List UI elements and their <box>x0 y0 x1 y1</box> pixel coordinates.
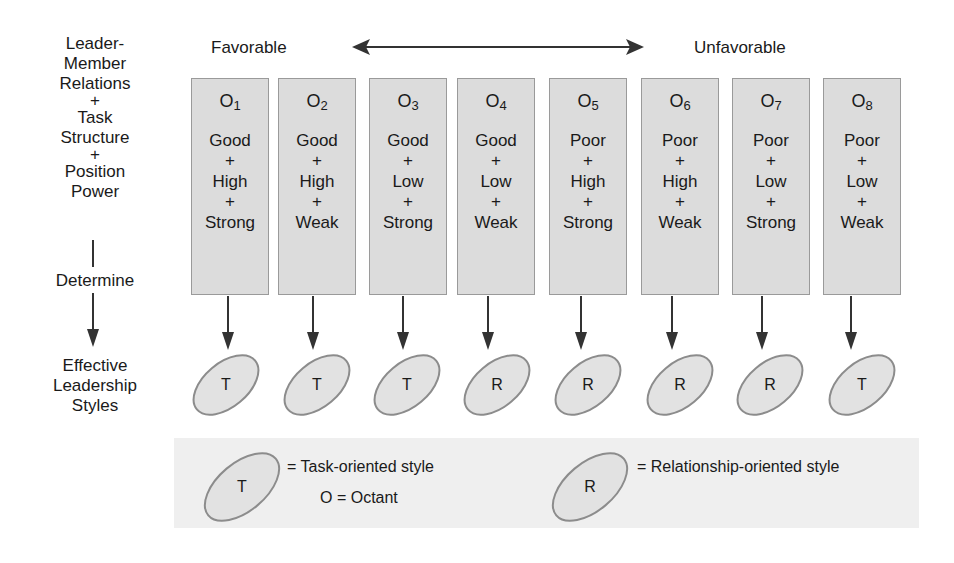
octant-box-4: O4 Good + Low + Weak <box>457 78 535 295</box>
style-ellipse-2: T <box>277 353 357 417</box>
ts-value: High <box>550 172 626 193</box>
down-arrow-icon <box>306 296 320 352</box>
style-ellipse-4: R <box>457 353 537 417</box>
style-ellipse-8: T <box>822 353 902 417</box>
octant-id: O2 <box>279 91 355 117</box>
style-ellipse-3: T <box>367 353 447 417</box>
plus-sign: + <box>40 94 150 108</box>
lmr-value: Good <box>192 131 268 152</box>
unfavorable-label: Unfavorable <box>694 38 786 58</box>
ts-value: Low <box>733 172 809 193</box>
down-arrow-icon <box>755 296 769 352</box>
double-arrow-icon <box>352 36 644 58</box>
down-arrow-icon <box>481 296 495 352</box>
style-letter: R <box>548 353 628 417</box>
octant-box-3: O3 Good + Low + Strong <box>369 78 447 295</box>
plus-sign: + <box>733 192 809 213</box>
legend-octant-text: O = Octant <box>320 489 398 507</box>
ts-value: Low <box>458 172 534 193</box>
pp-value: Strong <box>370 213 446 234</box>
legend-task-text: = Task-oriented style <box>287 458 434 476</box>
pp-value: Weak <box>824 213 900 234</box>
plus-sign: + <box>279 151 355 172</box>
style-letter: T <box>277 353 357 417</box>
plus-sign: + <box>370 151 446 172</box>
plus-sign: + <box>40 148 150 162</box>
plus-sign: + <box>550 151 626 172</box>
style-letter: T <box>194 452 290 522</box>
legend-relationship-text: = Relationship-oriented style <box>637 458 839 476</box>
style-letter: R <box>457 353 537 417</box>
plus-sign: + <box>824 192 900 213</box>
plus-sign: + <box>642 151 718 172</box>
label-determine: Determine <box>40 271 150 291</box>
plus-sign: + <box>458 151 534 172</box>
octant-id: O1 <box>192 91 268 117</box>
octant-box-2: O2 Good + High + Weak <box>278 78 356 295</box>
pp-value: Weak <box>458 213 534 234</box>
style-letter: R <box>640 353 720 417</box>
legend-relationship-ellipse: R <box>542 452 638 522</box>
style-letter: R <box>730 353 810 417</box>
pp-value: Weak <box>279 213 355 234</box>
style-ellipse-6: R <box>640 353 720 417</box>
octant-id: O3 <box>370 91 446 117</box>
lmr-value: Poor <box>642 131 718 152</box>
down-arrow-icon <box>221 296 235 352</box>
plus-sign: + <box>733 151 809 172</box>
ts-value: Low <box>824 172 900 193</box>
plus-sign: + <box>642 192 718 213</box>
pp-value: Strong <box>550 213 626 234</box>
label-line: Leadership <box>40 376 150 396</box>
pp-value: Strong <box>192 213 268 234</box>
style-letter: T <box>186 353 266 417</box>
style-ellipse-5: R <box>548 353 628 417</box>
plus-sign: + <box>550 192 626 213</box>
down-arrow-icon <box>665 296 679 352</box>
octant-box-1: O1 Good + High + Strong <box>191 78 269 295</box>
down-arrow-icon <box>844 296 858 352</box>
style-letter: T <box>367 353 447 417</box>
lmr-value: Good <box>279 131 355 152</box>
label-line: Member <box>40 54 150 74</box>
lmr-value: Poor <box>824 131 900 152</box>
octant-box-8: O8 Poor + Low + Weak <box>823 78 901 295</box>
style-ellipse-7: R <box>730 353 810 417</box>
pp-value: Weak <box>642 213 718 234</box>
label-line: Effective <box>40 356 150 376</box>
plus-sign: + <box>824 151 900 172</box>
style-letter: R <box>542 452 638 522</box>
label-line: Power <box>40 182 150 202</box>
plus-sign: + <box>458 192 534 213</box>
down-arrow-icon <box>86 293 100 349</box>
down-arrow-icon <box>574 296 588 352</box>
label-effective-leadership-styles: Effective Leadership Styles <box>40 356 150 416</box>
pp-value: Strong <box>733 213 809 234</box>
lmr-value: Good <box>458 131 534 152</box>
legend-task-ellipse: T <box>194 452 290 522</box>
label-line: Leader- <box>40 34 150 54</box>
plus-sign: + <box>192 151 268 172</box>
plus-sign: + <box>370 192 446 213</box>
label-line: Styles <box>40 396 150 416</box>
label-line: Position <box>40 162 150 182</box>
octant-id: O5 <box>550 91 626 117</box>
ts-value: High <box>279 172 355 193</box>
lmr-value: Poor <box>550 131 626 152</box>
octant-id: O6 <box>642 91 718 117</box>
plus-sign: + <box>192 192 268 213</box>
style-letter: T <box>822 353 902 417</box>
label-line: Task <box>40 108 150 128</box>
octant-id: O8 <box>824 91 900 117</box>
style-ellipse-1: T <box>186 353 266 417</box>
octant-id: O4 <box>458 91 534 117</box>
octant-box-6: O6 Poor + High + Weak <box>641 78 719 295</box>
label-leader-member-relations: Leader- Member Relations + Task Structur… <box>40 34 150 202</box>
ts-value: High <box>192 172 268 193</box>
ts-value: Low <box>370 172 446 193</box>
lmr-value: Good <box>370 131 446 152</box>
favorable-label: Favorable <box>211 38 287 58</box>
ts-value: High <box>642 172 718 193</box>
plus-sign: + <box>279 192 355 213</box>
connector-line <box>92 240 94 267</box>
